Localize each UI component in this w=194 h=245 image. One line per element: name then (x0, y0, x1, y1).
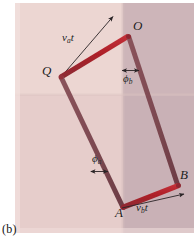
label-phi-a: ϕa (92, 153, 101, 166)
vertex-label-O: O (133, 19, 142, 32)
joint-B (176, 183, 181, 188)
vertex-label-B: B (180, 168, 188, 181)
seam-horizontal (15, 94, 194, 97)
background-regions (0, 0, 194, 245)
panel-caption: (b) (2, 222, 17, 237)
figure-canvas (0, 0, 194, 245)
background-lower-right-dark (123, 95, 194, 233)
label-va-t: vat (62, 32, 74, 45)
label-va-t-trailing: t (71, 31, 74, 43)
background-bottom-fade (15, 228, 194, 233)
background-left-fade (15, 3, 20, 233)
label-phi-a-subscript: a (98, 157, 102, 166)
label-vb-t: vbt (136, 202, 148, 215)
background-lower-left (15, 95, 123, 233)
label-phi-b: ϕb (123, 73, 132, 86)
label-vb-t-trailing: t (145, 201, 148, 213)
vertex-label-A: A (115, 206, 123, 219)
joint-O (126, 34, 131, 39)
vertex-label-Q: Q (42, 64, 51, 77)
figure-panel-b: O Q A B vat vbt ϕb ϕa (b) (0, 0, 194, 245)
label-phi-b-subscript: b (129, 77, 133, 86)
joint-Q (59, 75, 64, 80)
